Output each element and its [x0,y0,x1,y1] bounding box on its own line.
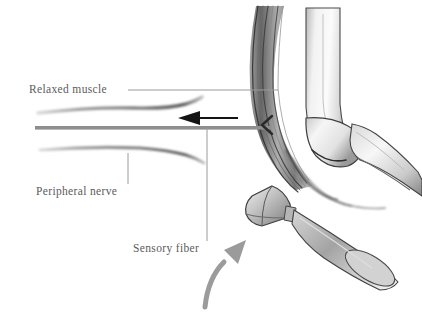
forearm-bone [350,124,422,196]
illustration-canvas [0,0,422,317]
impulse-arrow-icon [178,111,238,125]
peripheral-nerve-upper-strand [38,97,202,113]
peripheral-nerve-lower-strand [40,147,204,163]
peripheral-nerve [38,97,204,163]
label-sensory-fiber: Sensory fiber [133,243,199,255]
strike-direction-arrow-icon [205,240,246,307]
nerve-trunk-bar [35,126,271,130]
label-relaxed-muscle: Relaxed muscle [29,84,107,96]
label-peripheral-nerve: Peripheral nerve [36,186,117,198]
arm-illustration [250,6,422,209]
reflex-hammer [246,186,401,293]
anatomical-figure: Relaxed muscle Peripheral nerve Sensory … [0,0,422,317]
